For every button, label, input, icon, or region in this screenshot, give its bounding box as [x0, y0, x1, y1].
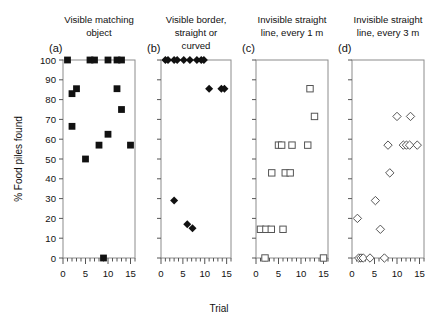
- data-point: [406, 112, 414, 120]
- data-point: [205, 85, 213, 93]
- figure-container: Visible matchingobject(a)010203040506070…: [0, 0, 438, 322]
- data-point: [186, 56, 194, 64]
- x-axis-title: Trial: [209, 303, 228, 314]
- multi-panel-scatter-figure: Visible matchingobject(a)010203040506070…: [0, 0, 438, 322]
- data-point: [384, 141, 392, 149]
- panel-title-d: Invisible straight: [354, 14, 423, 25]
- data-point: [262, 255, 268, 261]
- y-tick-label: 60: [45, 134, 56, 145]
- x-tick-label: 5: [276, 268, 281, 279]
- data-point: [105, 57, 112, 64]
- data-point: [268, 226, 274, 232]
- panel-title-a: object: [86, 27, 112, 38]
- x-tick-label: 10: [296, 268, 307, 279]
- x-tick-label: 15: [414, 268, 425, 279]
- y-tick-label: 80: [45, 94, 56, 105]
- y-tick-label: 10: [45, 233, 56, 244]
- data-point: [307, 86, 313, 92]
- x-tick-label: 0: [253, 268, 258, 279]
- panel-d: Invisible straightline, every 3 m(d)0510…: [338, 14, 425, 279]
- panel-letter-c: (c): [242, 42, 255, 54]
- x-tick-label: 5: [83, 268, 88, 279]
- panel-letter-a: (a): [49, 42, 62, 54]
- data-point: [371, 196, 379, 204]
- data-point: [82, 156, 89, 163]
- data-point: [105, 131, 112, 138]
- data-point: [96, 142, 103, 149]
- y-tick-label: 100: [40, 55, 56, 66]
- y-tick-label: 40: [45, 173, 56, 184]
- panel-c: Invisible straightline, every 1 m(c)0510…: [242, 14, 329, 279]
- x-tick-label: 15: [125, 268, 136, 279]
- data-point: [366, 254, 374, 262]
- data-point: [69, 123, 76, 130]
- data-point: [114, 85, 121, 92]
- data-point: [386, 169, 394, 177]
- panel-title-b: curved: [182, 40, 211, 51]
- y-axis-title: % Food piles found: [13, 116, 24, 202]
- data-point: [64, 57, 71, 64]
- x-tick-label: 5: [180, 268, 185, 279]
- data-point: [289, 142, 295, 148]
- data-point: [320, 255, 326, 261]
- data-point: [311, 113, 317, 119]
- data-point: [73, 85, 80, 92]
- x-tick-label: 15: [318, 268, 329, 279]
- panel-letter-d: (d): [338, 42, 351, 54]
- data-point: [380, 254, 388, 262]
- data-point: [413, 141, 421, 149]
- x-tick-label: 0: [60, 268, 65, 279]
- panel-title-d: line, every 3 m: [357, 27, 419, 38]
- panel-title-a: Visible matching: [64, 14, 134, 25]
- data-point: [127, 142, 134, 149]
- panel-frame-d: [352, 60, 424, 258]
- data-point: [118, 106, 125, 113]
- panel-title-c: Invisible straight: [258, 14, 327, 25]
- data-point: [287, 170, 293, 176]
- x-tick-label: 5: [372, 268, 377, 279]
- panel-b: Visible border,straight orcurved(b)05101…: [147, 14, 232, 279]
- x-tick-label: 10: [392, 268, 403, 279]
- y-tick-label: 70: [45, 114, 56, 125]
- data-point: [170, 197, 178, 205]
- data-point: [100, 255, 107, 262]
- data-point: [393, 112, 401, 120]
- data-point: [269, 170, 275, 176]
- y-tick-label: 20: [45, 213, 56, 224]
- x-tick-label: 15: [221, 268, 232, 279]
- y-tick-label: 90: [45, 74, 56, 85]
- y-tick-label: 50: [45, 154, 56, 165]
- y-tick-label: 0: [51, 253, 56, 264]
- panel-a: Visible matchingobject(a)010203040506070…: [40, 14, 136, 279]
- x-tick-label: 10: [199, 268, 210, 279]
- panel-title-c: line, every 1 m: [261, 27, 323, 38]
- data-point: [353, 214, 361, 222]
- panel-title-b: straight or: [175, 27, 218, 38]
- x-tick-label: 10: [103, 268, 114, 279]
- data-point: [376, 225, 384, 233]
- data-point: [305, 142, 311, 148]
- y-tick-label: 30: [45, 193, 56, 204]
- data-point: [91, 57, 98, 64]
- panel-letter-b: (b): [147, 42, 160, 54]
- data-point: [278, 142, 284, 148]
- x-tick-label: 0: [349, 268, 354, 279]
- data-point: [118, 57, 125, 64]
- panel-title-b: Visible border,: [166, 14, 227, 25]
- data-point: [280, 226, 286, 232]
- x-tick-label: 0: [158, 268, 163, 279]
